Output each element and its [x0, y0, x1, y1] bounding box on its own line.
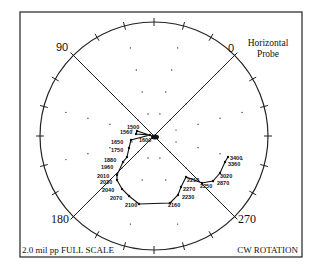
grid-dot	[219, 118, 220, 119]
rpm-label: 2270	[183, 186, 195, 192]
rpm-label: 2040	[102, 187, 114, 193]
grid-dot	[65, 159, 66, 160]
chart-title-line2: Probe	[257, 49, 279, 59]
data-point	[149, 134, 151, 136]
grid-dot	[130, 223, 131, 224]
data-point	[180, 186, 182, 188]
angle-label-270: 270	[238, 212, 256, 226]
grid-dot	[141, 91, 142, 92]
grid-dot	[147, 157, 148, 158]
grid-dot	[130, 47, 131, 48]
angle-label-90: 90	[56, 41, 68, 53]
data-point	[116, 174, 118, 176]
grid-dot	[87, 153, 88, 154]
data-point	[121, 188, 123, 190]
data-point	[177, 194, 179, 196]
data-point	[128, 195, 130, 197]
grid-dot	[65, 112, 66, 113]
grid-dot	[165, 179, 166, 180]
chart-title-line1: Horizontal	[248, 38, 289, 48]
grid-dot	[131, 141, 132, 142]
data-point	[135, 133, 137, 135]
rpm-label: 1750	[111, 147, 123, 153]
grid-dot	[141, 179, 142, 180]
grid-dot	[197, 123, 198, 124]
data-point	[128, 147, 130, 149]
origin-cluster	[151, 135, 159, 140]
grid-dot	[109, 123, 110, 124]
data-point	[122, 161, 124, 163]
data-point	[130, 139, 132, 141]
rpm-label: 2100	[125, 202, 137, 208]
grid-dot	[175, 141, 176, 142]
grid-dot	[87, 118, 88, 119]
rpm-label: 2230	[182, 194, 194, 200]
polar-plot: 0 90 180 270 Horizontal Probe 2.0 mil pp…	[0, 0, 317, 270]
angle-label-0: 0	[228, 42, 234, 54]
rpm-label: 2250	[200, 183, 212, 189]
data-point	[227, 156, 229, 158]
rpm-label: 2030	[100, 179, 112, 185]
data-point	[212, 180, 214, 182]
grid-dot	[147, 113, 148, 114]
rotation-label: CW ROTATION	[237, 245, 298, 255]
rpm-label: 3400	[230, 155, 242, 161]
data-point	[224, 161, 226, 163]
grid-dot	[241, 112, 242, 113]
rpm-label: 2870	[217, 180, 229, 186]
scale-label: 2.0 mil pp FULL SCALE	[22, 245, 114, 255]
rpm-label: 2070	[110, 195, 122, 201]
rpm-label: 2210	[187, 177, 199, 183]
rpm-label: 3020	[220, 173, 232, 179]
grid-dot	[177, 47, 178, 48]
data-point	[126, 156, 128, 158]
rpm-label: 1650	[111, 139, 123, 145]
angle-label-180: 180	[51, 212, 69, 226]
rpm-label: 1880	[104, 157, 116, 163]
grid-dot	[165, 91, 166, 92]
grid-dot	[171, 69, 172, 70]
grid-dot	[159, 113, 160, 114]
data-point	[138, 203, 140, 205]
rpm-label: 1960	[101, 164, 113, 170]
rpm-label: 1600	[139, 137, 151, 143]
rpm-label: 1560	[120, 129, 132, 135]
data-point	[116, 179, 118, 181]
grid-dot	[159, 157, 160, 158]
grid-dot	[175, 129, 176, 130]
grid-dot	[136, 69, 137, 70]
data-point	[136, 130, 138, 132]
grid-dot	[219, 153, 220, 154]
rpm-label: 3360	[228, 161, 240, 167]
grid-dot	[177, 223, 178, 224]
grid-dot	[197, 147, 198, 148]
rpm-label: 2160	[168, 202, 180, 208]
